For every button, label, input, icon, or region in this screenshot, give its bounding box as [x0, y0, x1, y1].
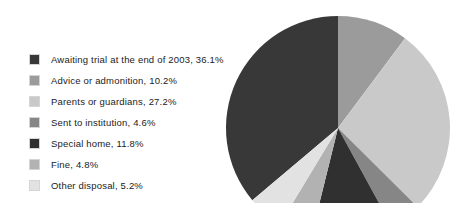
legend-item: Fine, 4.8% [29, 154, 234, 175]
legend-swatch [29, 54, 40, 65]
chart-legend: Awaiting trial at the end of 2003, 36.1%… [29, 49, 234, 196]
chart-page: Awaiting trial at the end of 2003, 36.1%… [0, 0, 468, 203]
pie-slice [338, 128, 418, 203]
legend-label: Sent to institution, 4.6% [51, 117, 156, 128]
legend-swatch [29, 75, 40, 86]
legend-item: Sent to institution, 4.6% [29, 112, 234, 133]
legend-label: Special home, 11.8% [51, 138, 144, 149]
legend-swatch [29, 159, 40, 170]
legend-item: Parents or guardians, 27.2% [29, 91, 234, 112]
legend-swatch [29, 180, 40, 191]
pie-slice [226, 16, 338, 200]
pie-slice-group [226, 16, 450, 203]
pie-slice [252, 128, 338, 203]
pie-slice [338, 38, 450, 203]
legend-label: Advice or admonition, 10.2% [51, 75, 177, 86]
legend-label: Fine, 4.8% [51, 159, 98, 170]
legend-item: Other disposal, 5.2% [29, 175, 234, 196]
legend-label: Parents or guardians, 27.2% [51, 96, 177, 107]
legend-item: Advice or admonition, 10.2% [29, 70, 234, 91]
legend-item: Special home, 11.8% [29, 133, 234, 154]
pie-slice [280, 128, 338, 203]
legend-swatch [29, 138, 40, 149]
legend-label: Awaiting trial at the end of 2003, 36.1% [51, 54, 224, 65]
legend-swatch [29, 117, 40, 128]
legend-label: Other disposal, 5.2% [51, 180, 143, 191]
legend-item: Awaiting trial at the end of 2003, 36.1% [29, 49, 234, 70]
pie-slice [311, 128, 392, 203]
legend-swatch [29, 96, 40, 107]
pie-slice [338, 16, 405, 128]
